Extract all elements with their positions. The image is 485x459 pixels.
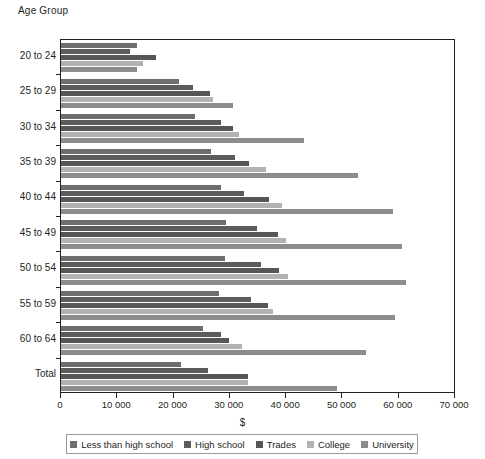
- bar: [61, 220, 226, 225]
- legend-swatch-icon: [256, 441, 263, 448]
- legend-item[interactable]: Trades: [256, 439, 296, 450]
- bar-group: [61, 114, 454, 143]
- bar: [61, 338, 229, 343]
- bar-group: [61, 326, 454, 355]
- x-axis-tick: [285, 393, 286, 398]
- bar: [61, 61, 143, 66]
- bar-group: [61, 220, 454, 249]
- bar: [61, 297, 251, 302]
- bar: [61, 120, 221, 125]
- bar: [61, 244, 402, 249]
- bar: [61, 374, 248, 379]
- bar: [61, 386, 337, 391]
- x-axis-tick: [398, 393, 399, 398]
- y-axis-label: 40 to 44: [0, 191, 56, 202]
- x-axis-tick-label: 40 000: [271, 399, 300, 410]
- legend-item[interactable]: College: [307, 439, 350, 450]
- bar: [61, 149, 211, 154]
- bar: [61, 191, 244, 196]
- bar: [61, 155, 235, 160]
- bar: [61, 55, 156, 60]
- y-axis-label: 50 to 54: [0, 262, 56, 273]
- legend-item[interactable]: University: [361, 439, 414, 450]
- bar: [61, 332, 221, 337]
- x-axis-tick: [229, 393, 230, 398]
- y-axis-label: 60 to 64: [0, 333, 56, 344]
- bar: [61, 326, 203, 331]
- legend-item[interactable]: Less than high school: [70, 439, 173, 450]
- bar: [61, 309, 273, 314]
- y-axis-label: 35 to 39: [0, 156, 56, 167]
- bar: [61, 43, 137, 48]
- legend-label: Less than high school: [81, 439, 173, 450]
- bar: [61, 49, 130, 54]
- bar: [61, 167, 266, 172]
- y-axis-label: 30 to 34: [0, 121, 56, 132]
- legend-swatch-icon: [307, 441, 314, 448]
- chart-legend: Less than high schoolHigh schoolTradesCo…: [66, 434, 418, 454]
- legend-swatch-icon: [70, 441, 77, 448]
- legend-label: University: [372, 439, 414, 450]
- bar-group: [61, 256, 454, 285]
- bar-group: [61, 149, 454, 178]
- legend-label: Trades: [267, 439, 296, 450]
- legend-swatch-icon: [361, 441, 368, 448]
- x-axis-title: $: [0, 417, 485, 428]
- bar: [61, 126, 233, 131]
- legend-swatch-icon: [184, 441, 191, 448]
- x-axis-tick-label: 0: [57, 399, 62, 410]
- bar: [61, 238, 286, 243]
- bar: [61, 280, 406, 285]
- bar: [61, 303, 268, 308]
- x-axis-tick: [116, 393, 117, 398]
- bar: [61, 203, 282, 208]
- legend-label: College: [318, 439, 350, 450]
- bar-group: [61, 43, 454, 72]
- legend-item[interactable]: High school: [184, 439, 245, 450]
- bar: [61, 344, 242, 349]
- y-axis-label: 25 to 29: [0, 85, 56, 96]
- bar: [61, 268, 279, 273]
- bar: [61, 226, 257, 231]
- bar: [61, 350, 366, 355]
- bar: [61, 114, 195, 119]
- y-axis-label: Total: [0, 368, 56, 379]
- bar-group: [61, 362, 454, 391]
- bar: [61, 262, 261, 267]
- x-axis-tick: [173, 393, 174, 398]
- y-axis-label: 20 to 24: [0, 50, 56, 61]
- bar-group: [61, 185, 454, 214]
- bar: [61, 209, 393, 214]
- bar: [61, 197, 269, 202]
- x-axis-tick-label: 70 000: [439, 399, 468, 410]
- y-axis-title: Age Group: [18, 5, 68, 16]
- bar: [61, 232, 278, 237]
- legend-label: High school: [195, 439, 245, 450]
- bar: [61, 79, 179, 84]
- x-axis-tick-label: 50 000: [327, 399, 356, 410]
- x-axis-tick-label: 60 000: [383, 399, 412, 410]
- bar: [61, 173, 358, 178]
- bar: [61, 315, 395, 320]
- x-axis-tick: [341, 393, 342, 398]
- bar: [61, 380, 248, 385]
- bar: [61, 103, 233, 108]
- bar: [61, 161, 249, 166]
- x-axis-tick: [60, 393, 61, 398]
- x-axis-tick-label: 30 000: [214, 399, 243, 410]
- bars-container: [61, 40, 454, 392]
- x-axis-tick-label: 20 000: [158, 399, 187, 410]
- bar: [61, 138, 304, 143]
- bar: [61, 85, 193, 90]
- plot-area: [60, 39, 455, 393]
- bar: [61, 368, 208, 373]
- bar-chart: Age Group 20 to 2425 to 2930 to 3435 to …: [0, 0, 485, 459]
- bar: [61, 97, 213, 102]
- bar: [61, 256, 225, 261]
- y-axis-label: 45 to 49: [0, 227, 56, 238]
- x-axis-tick: [454, 393, 455, 398]
- bar-group: [61, 291, 454, 320]
- bar: [61, 291, 219, 296]
- y-axis-label: 55 to 59: [0, 298, 56, 309]
- bar: [61, 274, 288, 279]
